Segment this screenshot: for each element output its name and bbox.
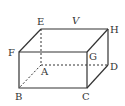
edge-gh: [87, 29, 108, 52]
cuboid-figure: E V H F G A D B C: [0, 0, 125, 106]
front-face-fghb: [19, 52, 87, 88]
label-g: G: [89, 51, 97, 62]
label-a: A: [40, 66, 49, 77]
cuboid-diagram: E V H F G A D B C: [0, 0, 125, 106]
label-e: E: [37, 16, 44, 27]
edge-fe: [19, 29, 41, 52]
label-f: F: [8, 47, 15, 58]
label-d: D: [110, 61, 118, 72]
edge-cd: [87, 65, 108, 88]
label-b: B: [15, 91, 22, 102]
edge-ab: [19, 65, 41, 88]
label-h: H: [110, 24, 119, 35]
label-c: C: [82, 91, 90, 102]
label-v: V: [72, 15, 81, 26]
